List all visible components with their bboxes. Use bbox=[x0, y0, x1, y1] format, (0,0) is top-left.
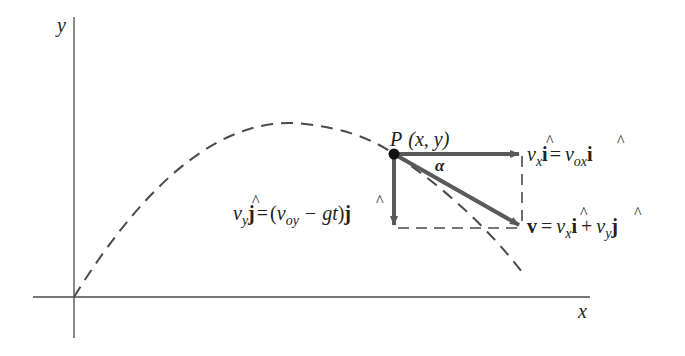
vy-equation: vyj=(voy−gt)j ^ ^ bbox=[233, 192, 384, 228]
hat-icon: ^ bbox=[376, 192, 384, 209]
x-axis-label: x bbox=[577, 300, 587, 322]
svg-text:vyj=(voy−gt)j: vyj=(voy−gt)j bbox=[233, 202, 351, 228]
diagram-svg: y x P(x, y) α vxi=voxi ^ ^ vy bbox=[0, 0, 685, 356]
y-axis-label: y bbox=[55, 14, 66, 37]
hat-icon: ^ bbox=[580, 204, 588, 221]
vx-equation: vxi=voxi ^ ^ bbox=[527, 132, 625, 169]
hat-icon: ^ bbox=[546, 132, 554, 149]
v-resultant-equation: v=vxi+vyj ^ ^ bbox=[527, 204, 642, 241]
hat-icon: ^ bbox=[252, 192, 260, 209]
point-p-dot bbox=[389, 149, 400, 160]
hat-icon: ^ bbox=[617, 132, 625, 149]
projectile-diagram: y x P(x, y) α vxi=voxi ^ ^ vy bbox=[0, 0, 685, 356]
angle-alpha-label: α bbox=[435, 156, 445, 175]
svg-text:vxi=voxi: vxi=voxi bbox=[527, 143, 593, 169]
hat-icon: ^ bbox=[634, 204, 642, 221]
svg-text:v=vxi+vyj: v=vxi+vyj bbox=[527, 215, 618, 241]
v-resultant-arrow bbox=[394, 154, 519, 225]
point-p-label: P(x, y) bbox=[389, 128, 450, 151]
trajectory-curve bbox=[74, 123, 522, 297]
